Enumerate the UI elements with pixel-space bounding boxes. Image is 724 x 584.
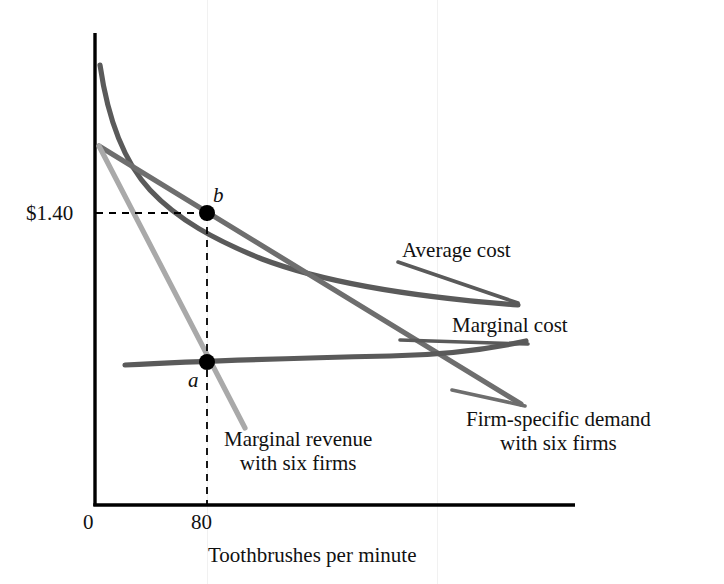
chart-plot-area: [0, 0, 724, 584]
marginal-revenue-label: Marginal revenue with six firms: [224, 428, 372, 475]
firm-specific-demand-label: Firm-specific demand with six firms: [466, 408, 651, 455]
point-a-label: a: [188, 368, 199, 393]
marginal-cost-curve: [125, 341, 526, 365]
average-cost-label: Average cost: [402, 239, 511, 263]
firm-specific-demand-label-line1: Firm-specific demand: [466, 408, 651, 432]
marginal-revenue-label-line2: with six firms: [224, 452, 372, 476]
marginal-revenue-label-line1: Marginal revenue: [224, 428, 372, 452]
marginal-cost-label: Marginal cost: [452, 314, 568, 338]
firm-specific-demand-label-line2: with six firms: [466, 432, 651, 456]
x-tick-eighty-label: 80: [191, 510, 212, 535]
point-b-label: b: [213, 183, 224, 208]
x-axis-title: Toothbrushes per minute: [208, 543, 417, 568]
chart-container: $1.40 0 80 Toothbrushes per minute b a A…: [0, 0, 724, 584]
point-a-marker: [199, 354, 215, 370]
x-tick-zero-label: 0: [83, 510, 94, 535]
price-tick-label: $1.40: [26, 201, 73, 226]
